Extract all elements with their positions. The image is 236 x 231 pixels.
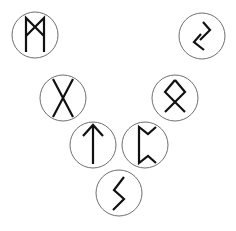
- rune-ring: [12, 12, 58, 58]
- rune-ring: [96, 170, 142, 216]
- rune-jera: [179, 13, 225, 59]
- rune-ring: [152, 75, 198, 121]
- rune-diagram: [0, 0, 236, 231]
- rune-ring: [122, 122, 168, 168]
- rune-perthro: [122, 122, 168, 168]
- rune-ring: [179, 13, 225, 59]
- rune-sowilo: [96, 170, 142, 216]
- rune-gebo: [40, 75, 86, 121]
- rune-othala: [152, 75, 198, 121]
- rune-tiwaz: [70, 122, 116, 168]
- rune-mannaz: [12, 12, 58, 58]
